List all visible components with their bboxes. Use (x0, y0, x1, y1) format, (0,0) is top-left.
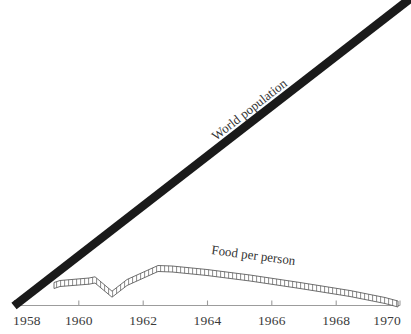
chart-canvas: 1958 1960 1962 1964 1966 1968 1970 World… (0, 0, 411, 334)
food-per-person-ribbon (54, 266, 398, 308)
x-axis-ticks (15, 300, 401, 306)
x-axis-tick-labels: 1958 1960 1962 1964 1966 1968 1970 (13, 313, 401, 328)
x-tick-label-1958: 1958 (13, 313, 41, 328)
x-tick-label-1962: 1962 (129, 313, 157, 328)
series-food-per-person (54, 266, 398, 308)
x-tick-label-1968: 1968 (322, 313, 350, 328)
annotation-food-per-person: Food per person (211, 242, 297, 268)
x-tick-label-1964: 1964 (194, 313, 222, 328)
x-tick-label-1966: 1966 (258, 313, 286, 328)
x-axis: 1958 1960 1962 1964 1966 1968 1970 (13, 300, 401, 328)
series-world-population (14, 0, 411, 306)
chart-annotations: World population Food per person (209, 75, 297, 268)
chart-figure: 1958 1960 1962 1964 1966 1968 1970 World… (0, 0, 411, 334)
x-tick-label-1970: 1970 (373, 313, 401, 328)
annotation-world-population: World population (209, 75, 290, 143)
world-population-line (14, 0, 411, 306)
x-tick-label-1960: 1960 (65, 313, 93, 328)
